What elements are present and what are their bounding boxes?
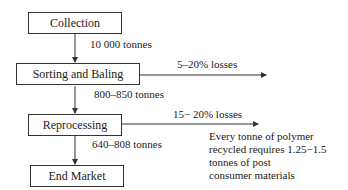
node-collection: Collection xyxy=(28,12,122,34)
note-line: tonnes of post xyxy=(209,156,326,169)
node-end-market: End Market xyxy=(30,165,124,187)
node-label: Reprocessing xyxy=(43,118,108,133)
note-line: Every tonne of polymer xyxy=(209,130,326,143)
note-line: recycled requires 1.25−1.5 xyxy=(209,143,326,156)
loss-label-reprocessing: 15− 20% losses xyxy=(173,108,242,120)
flow-label-sorting-reprocessing: 800–850 tonnes xyxy=(94,88,164,100)
flow-label-collection-sorting: 10 000 tonnes xyxy=(90,38,152,50)
loss-label-sorting: 5–20% losses xyxy=(177,58,237,70)
node-label: Collection xyxy=(50,16,100,31)
node-reprocessing: Reprocessing xyxy=(28,114,122,136)
flow-label-reprocessing-endmarket: 640–808 tonnes xyxy=(92,138,162,150)
node-sorting-baling: Sorting and Baling xyxy=(16,63,140,85)
node-label: End Market xyxy=(49,169,106,184)
node-label: Sorting and Baling xyxy=(33,67,124,82)
polymer-note: Every tonne of polymer recycled requires… xyxy=(209,130,326,182)
note-line: consumer materials xyxy=(209,169,326,182)
